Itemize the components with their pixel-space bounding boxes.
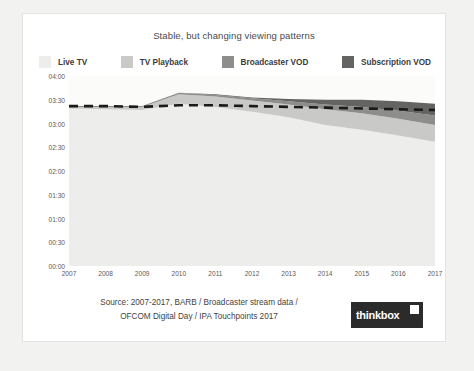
- chart-legend: Live TV TV Playback Broadcaster VOD Subs…: [33, 56, 437, 68]
- y-axis-tick-label: 00:30: [48, 239, 65, 246]
- x-axis-tick-label: 2017: [428, 270, 443, 277]
- x-axis-tick-label: 2010: [171, 270, 186, 277]
- x-axis-tick-label: 2015: [354, 270, 369, 277]
- thinkbox-logo: thinkbox: [351, 302, 423, 328]
- logo-square-icon: [410, 305, 419, 314]
- logo-text: thinkbox: [351, 309, 399, 321]
- source-line-1: Source: 2007-2017, BARB / Broadcaster st…: [49, 296, 349, 310]
- y-axis-tick-label: 01:00: [48, 215, 65, 222]
- legend-label: Subscription VOD: [361, 58, 431, 67]
- legend-label: Broadcaster VOD: [241, 58, 309, 67]
- y-axis-tick-label: 02:30: [48, 144, 65, 151]
- legend-swatch-icon: [342, 56, 354, 68]
- chart-title: Stable, but changing viewing patterns: [23, 30, 445, 41]
- x-axis-tick-label: 2008: [98, 270, 113, 277]
- y-axis-tick-label: 01:30: [48, 191, 65, 198]
- x-axis-tick-label: 2013: [281, 270, 296, 277]
- x-axis-tick-label: 2009: [135, 270, 150, 277]
- x-axis-tick-label: 2007: [62, 270, 77, 277]
- area-chart-svg: [69, 76, 435, 266]
- legend-swatch-icon: [121, 56, 133, 68]
- source-line-2: OFCOM Digital Day / IPA Touchpoints 2017: [49, 310, 349, 324]
- legend-swatch-icon: [39, 56, 51, 68]
- stacked-area-plot: [69, 76, 435, 266]
- y-axis-tick-label: 03:00: [48, 120, 65, 127]
- y-axis-tick-label: 03:30: [48, 96, 65, 103]
- y-axis: 04:0003:3003:0002:3002:0001:3001:0000:30…: [31, 76, 67, 266]
- x-axis-tick-label: 2016: [391, 270, 406, 277]
- plot-area-wrapper: 04:0003:3003:0002:3002:0001:3001:0000:30…: [31, 76, 439, 288]
- legend-label: TV Playback: [140, 58, 188, 67]
- x-axis: 2007200820092010201120122013201420152016…: [69, 267, 435, 283]
- y-axis-tick-label: 02:00: [48, 168, 65, 175]
- legend-swatch-icon: [222, 56, 234, 68]
- source-note: Source: 2007-2017, BARB / Broadcaster st…: [49, 296, 349, 324]
- legend-item-tv-playback: TV Playback: [121, 56, 188, 68]
- legend-item-broadcaster-vod: Broadcaster VOD: [222, 56, 309, 68]
- y-axis-tick-label: 00:00: [48, 263, 65, 270]
- x-axis-tick-label: 2012: [245, 270, 260, 277]
- legend-label: Live TV: [58, 58, 87, 67]
- y-axis-tick-label: 04:00: [48, 73, 65, 80]
- x-axis-tick-label: 2014: [318, 270, 333, 277]
- slide-canvas: Stable, but changing viewing patterns Li…: [22, 13, 446, 342]
- legend-item-live-tv: Live TV: [39, 56, 87, 68]
- legend-item-subscription-vod: Subscription VOD: [342, 56, 431, 68]
- x-axis-tick-label: 2011: [208, 270, 222, 277]
